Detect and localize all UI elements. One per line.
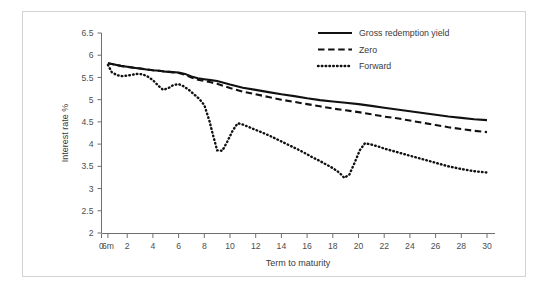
y-tick-label: 3.5 <box>82 161 94 171</box>
x-tick-label: 20 <box>354 241 364 251</box>
series-line-forward <box>108 65 487 178</box>
y-tick-label: 5.5 <box>82 73 94 83</box>
y-tick-label: 4 <box>89 139 94 149</box>
x-tick-label: 10 <box>225 241 235 251</box>
x-axis-title: Term to maturity <box>266 258 331 268</box>
y-tick-label: 4.5 <box>82 117 94 127</box>
x-tick-label: 26 <box>431 241 441 251</box>
y-tick-labels: 22.533.544.555.566.5 <box>82 28 94 238</box>
x-tick-label: 24 <box>405 241 415 251</box>
x-tick-label: 28 <box>457 241 467 251</box>
legend-label: Gross redemption yield <box>359 28 450 38</box>
yield-curve-chart: 22.533.544.555.566.5 06m2468101214161820… <box>0 0 550 294</box>
x-tick-label: 14 <box>277 241 287 251</box>
x-tick-label: 30 <box>482 241 492 251</box>
y-tick-label: 2.5 <box>82 206 94 216</box>
x-tick-labels: 06m24681012141618202224262830 <box>99 241 492 251</box>
x-tick-label: 4 <box>151 241 156 251</box>
x-tick-label: 18 <box>328 241 338 251</box>
chart-legend: Gross redemption yieldZeroForward <box>318 28 450 71</box>
x-tick-label: 12 <box>251 241 261 251</box>
x-tick-label: 2 <box>125 241 130 251</box>
y-tick-marks <box>98 33 102 233</box>
y-axis-title: Interest rate % <box>60 104 70 163</box>
x-tick-label: 6m <box>102 241 114 251</box>
x-tick-label: 6 <box>176 241 181 251</box>
legend-label: Forward <box>359 61 391 71</box>
legend-label: Zero <box>359 45 377 55</box>
x-tick-label: 8 <box>202 241 207 251</box>
y-axis-group: 22.533.544.555.566.5 <box>82 28 102 238</box>
x-tick-label: 22 <box>379 241 389 251</box>
x-tick-label: 16 <box>302 241 312 251</box>
series-line-gross-redemption-yield <box>108 63 487 120</box>
x-tick-marks <box>102 234 488 238</box>
data-series-group <box>108 63 487 178</box>
x-axis-group: 06m24681012141618202224262830 <box>99 234 495 252</box>
y-tick-label: 3 <box>89 184 94 194</box>
y-tick-label: 6 <box>89 50 94 60</box>
y-tick-label: 5 <box>89 95 94 105</box>
y-tick-label: 2 <box>89 228 94 238</box>
y-tick-label: 6.5 <box>82 28 94 38</box>
